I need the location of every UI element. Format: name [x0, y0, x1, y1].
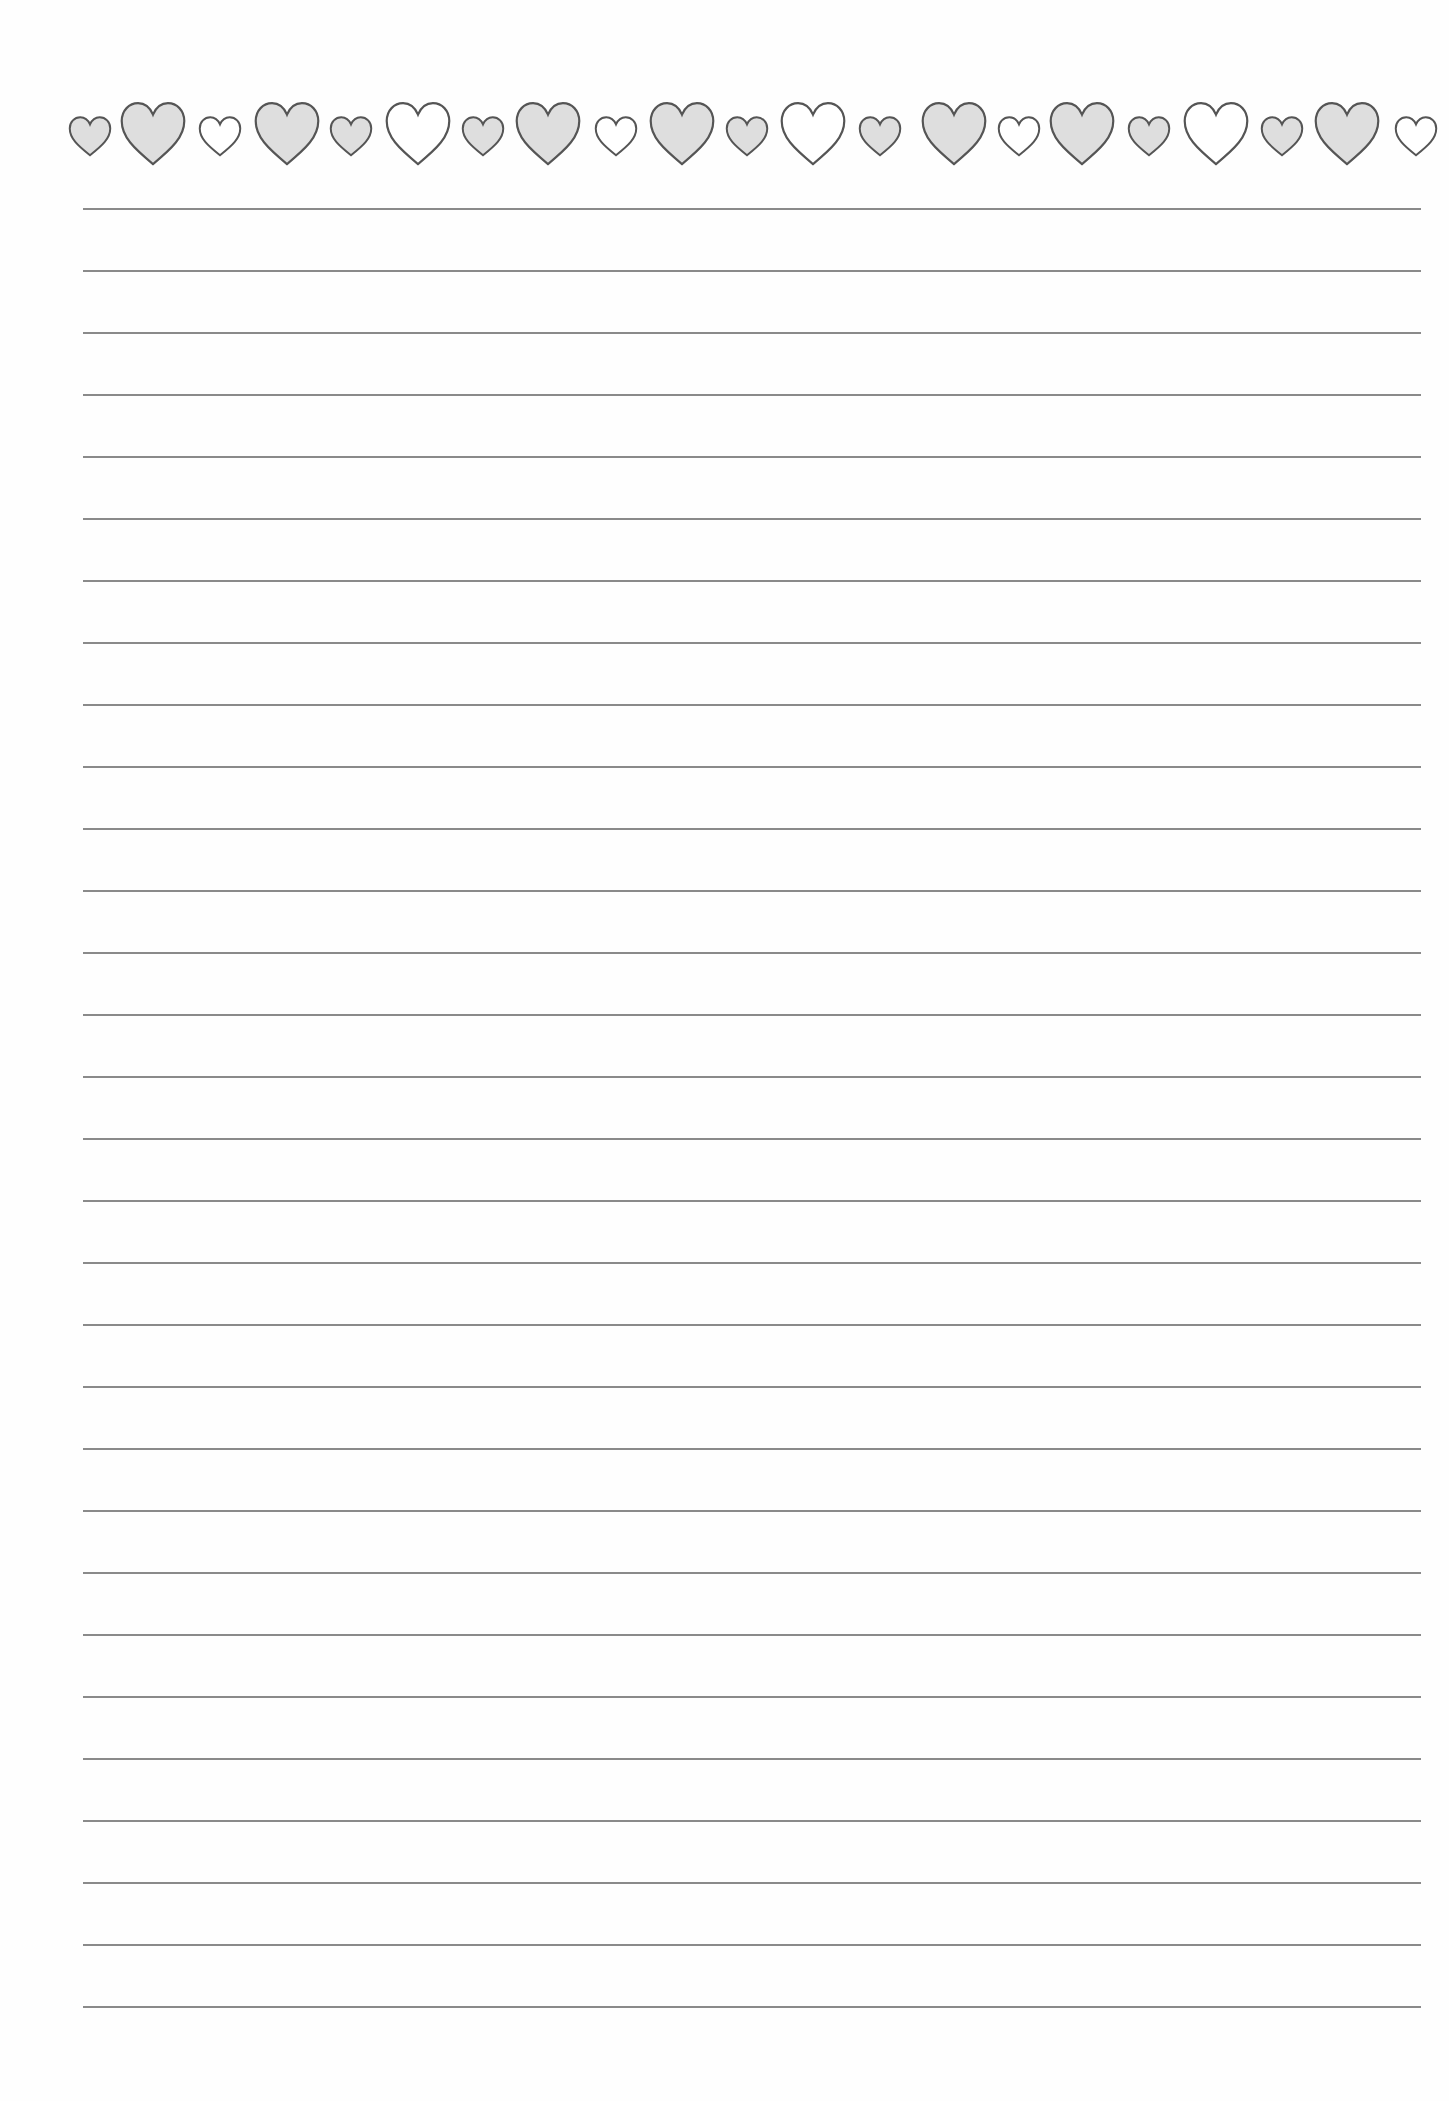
writing-line — [83, 1758, 1421, 1760]
writing-line — [83, 456, 1421, 458]
filled-heart-icon — [329, 116, 373, 157]
outline-heart-icon — [198, 116, 242, 157]
writing-line — [83, 1448, 1421, 1450]
writing-line — [83, 270, 1421, 272]
filled-heart-icon — [1048, 101, 1116, 167]
writing-line — [83, 1138, 1421, 1140]
outline-heart-icon — [997, 116, 1041, 157]
filled-heart-icon — [514, 101, 582, 167]
writing-line — [83, 642, 1421, 644]
outline-heart-icon — [779, 101, 847, 167]
filled-heart-icon — [858, 116, 902, 157]
writing-line — [83, 1634, 1421, 1636]
writing-line — [83, 580, 1421, 582]
writing-line — [83, 1200, 1421, 1202]
writing-line — [83, 1324, 1421, 1326]
writing-line — [83, 1262, 1421, 1264]
outline-heart-icon — [1394, 116, 1438, 157]
writing-line — [83, 1882, 1421, 1884]
writing-line — [83, 332, 1421, 334]
filled-heart-icon — [253, 101, 321, 167]
writing-line — [83, 1820, 1421, 1822]
lined-paper-page — [0, 0, 1449, 2101]
writing-line — [83, 890, 1421, 892]
writing-line — [83, 518, 1421, 520]
outline-heart-icon — [594, 116, 638, 157]
writing-line — [83, 1076, 1421, 1078]
writing-line — [83, 2006, 1421, 2008]
writing-line — [83, 208, 1421, 210]
filled-heart-icon — [920, 101, 988, 167]
filled-heart-icon — [68, 116, 112, 157]
writing-line — [83, 952, 1421, 954]
filled-heart-icon — [648, 101, 716, 167]
outline-heart-icon — [1182, 101, 1250, 167]
outline-heart-icon — [384, 101, 452, 167]
writing-line — [83, 394, 1421, 396]
filled-heart-icon — [461, 116, 505, 157]
writing-line — [83, 704, 1421, 706]
writing-line — [83, 766, 1421, 768]
writing-line — [83, 1510, 1421, 1512]
filled-heart-icon — [1260, 116, 1304, 157]
filled-heart-icon — [725, 116, 769, 157]
filled-heart-icon — [1313, 101, 1381, 167]
writing-line — [83, 1014, 1421, 1016]
writing-line — [83, 1944, 1421, 1946]
filled-heart-icon — [119, 101, 187, 167]
writing-line — [83, 1572, 1421, 1574]
writing-line — [83, 828, 1421, 830]
writing-line — [83, 1696, 1421, 1698]
filled-heart-icon — [1127, 116, 1171, 157]
writing-line — [83, 1386, 1421, 1388]
